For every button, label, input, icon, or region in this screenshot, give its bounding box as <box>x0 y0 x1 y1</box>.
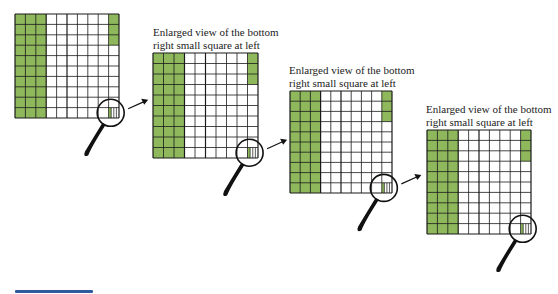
caption-panel-2: Enlarged view of the bottom right small … <box>153 26 279 52</box>
diagram-canvas <box>0 0 558 294</box>
caption-panel-4: Enlarged view of the bottom right small … <box>426 103 552 129</box>
caption-panel-3: Enlarged view of the bottom right small … <box>289 64 415 90</box>
arrow-icon <box>267 139 287 149</box>
arrow-icon <box>401 174 421 184</box>
shaded-partial-column <box>521 130 531 161</box>
caption-line-1: Enlarged view of the bottom <box>153 26 279 39</box>
grid-panel-4 <box>427 130 536 271</box>
shaded-partial-column <box>109 14 119 45</box>
shaded-partial-column <box>382 91 392 122</box>
grid-panel-2 <box>153 53 287 195</box>
grid-panel-1 <box>15 14 148 155</box>
grid-panel-3 <box>290 91 421 230</box>
arrow-icon <box>128 99 148 109</box>
caption-line-1: Enlarged view of the bottom <box>426 103 552 116</box>
caption-line-2: right small square at left <box>426 116 552 129</box>
caption-line-2: right small square at left <box>153 39 279 52</box>
decimal-grid-zoom-diagram: Enlarged view of the bottom right small … <box>0 0 558 294</box>
section-accent-bar <box>15 290 93 293</box>
caption-line-2: right small square at left <box>289 77 415 90</box>
caption-line-1: Enlarged view of the bottom <box>289 64 415 77</box>
shaded-partial-column <box>248 53 259 85</box>
